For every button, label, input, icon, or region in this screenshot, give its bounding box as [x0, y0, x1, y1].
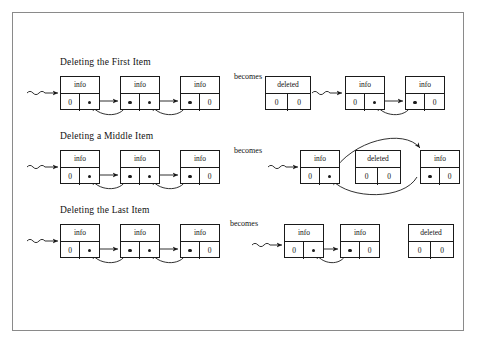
- pointer-dot-icon: [88, 101, 92, 105]
- node-next-cell: [320, 168, 339, 185]
- node-prev-cell: 0: [61, 168, 80, 185]
- node-prev-cell: [121, 242, 140, 259]
- node-pointer-row: 0: [181, 94, 219, 111]
- pointer-dot-icon: [148, 249, 152, 253]
- node-next-cell: [140, 168, 159, 185]
- before-node-3-row-3[interactable]: info 0: [180, 224, 220, 258]
- node-pointer-row: 0: [341, 242, 379, 259]
- node-prev-cell: 0: [356, 168, 378, 185]
- pointer-dot-icon: [148, 101, 152, 105]
- node-next-cell: 0: [440, 168, 459, 185]
- node-pointer-row: 0: [421, 168, 459, 185]
- becomes-label-row-2: becomes: [234, 146, 262, 155]
- pointer-dot-icon: [373, 101, 377, 105]
- node-next-cell: 0: [378, 168, 400, 185]
- deleted-info-label: deleted: [356, 151, 400, 168]
- node-info-label: info: [181, 225, 219, 242]
- node-info-label: info: [181, 151, 219, 168]
- node-info-label: info: [181, 77, 219, 94]
- after-deleted-node-row-1[interactable]: deleted 0 0: [265, 76, 311, 110]
- node-next-cell: [140, 94, 159, 111]
- node-pointer-row: 0: [181, 242, 219, 259]
- node-next-cell: 0: [288, 94, 310, 111]
- pointer-dot-icon: [188, 101, 192, 105]
- before-node-1[interactable]: info 0: [60, 76, 100, 110]
- before-node-1-row-3[interactable]: info 0: [60, 224, 100, 258]
- before-node-2-row-3[interactable]: info: [120, 224, 160, 258]
- before-node-2-row-2[interactable]: info: [120, 150, 160, 184]
- pointer-dot-icon: [88, 249, 92, 253]
- node-next-cell: 0: [200, 168, 219, 185]
- before-node-2[interactable]: info: [120, 76, 160, 110]
- node-info-label: info: [121, 77, 159, 94]
- node-info-label: info: [61, 151, 99, 168]
- node-info-label: info: [61, 77, 99, 94]
- pointer-dot-icon: [128, 175, 132, 179]
- node-next-cell: 0: [200, 242, 219, 259]
- before-node-3-row-2[interactable]: info 0: [180, 150, 220, 184]
- node-next-cell: 0: [360, 242, 379, 259]
- node-next-cell: 0: [200, 94, 219, 111]
- node-prev-cell: [181, 94, 200, 111]
- becomes-label-row-3: becomes: [230, 219, 258, 228]
- pointer-dot-icon: [148, 175, 152, 179]
- deleted-info-label: deleted: [266, 77, 310, 94]
- node-prev-cell: 0: [61, 94, 80, 111]
- node-pointer-row: 0: [406, 94, 444, 111]
- node-pointer-row: [121, 168, 159, 185]
- after-node-2-row-3[interactable]: info 0: [340, 224, 380, 258]
- node-prev-cell: 0: [266, 94, 288, 111]
- node-prev-cell: [341, 242, 360, 259]
- after-deleted-node-row-3[interactable]: deleted 0 0: [408, 224, 454, 258]
- node-prev-cell: 0: [301, 168, 320, 185]
- node-pointer-row: [121, 242, 159, 259]
- node-info-label: info: [61, 225, 99, 242]
- pointer-dot-icon: [188, 249, 192, 253]
- node-next-cell: 0: [431, 242, 453, 259]
- after-node-1-row-2[interactable]: info 0: [300, 150, 340, 184]
- node-prev-cell: [421, 168, 440, 185]
- pointer-dot-icon: [428, 175, 432, 179]
- node-pointer-row: 0: [61, 242, 99, 259]
- after-node-1-row-1[interactable]: info 0: [345, 76, 385, 110]
- node-info-label: info: [301, 151, 339, 168]
- after-node-2-row-2[interactable]: info 0: [420, 150, 460, 184]
- node-pointer-row: 0: [301, 168, 339, 185]
- node-prev-cell: [406, 94, 425, 111]
- node-prev-cell: 0: [346, 94, 365, 111]
- node-prev-cell: [181, 242, 200, 259]
- node-pointer-row: 0: [181, 168, 219, 185]
- node-next-cell: [80, 242, 99, 259]
- pointer-dot-icon: [328, 175, 332, 179]
- node-prev-cell: 0: [285, 242, 304, 259]
- node-next-cell: [80, 94, 99, 111]
- pointer-dot-icon: [413, 101, 417, 105]
- node-pointer-row: 0 0: [266, 94, 310, 111]
- row-title-delete-first: Deleting the First Item: [60, 57, 151, 67]
- node-next-cell: [304, 242, 323, 259]
- node-pointer-row: 0: [61, 94, 99, 111]
- node-info-label: info: [285, 225, 323, 242]
- node-info-label: info: [121, 151, 159, 168]
- deleted-info-label: deleted: [409, 225, 453, 242]
- after-node-2-row-1[interactable]: info 0: [405, 76, 445, 110]
- row-title-delete-middle: Deleting a Middle Item: [60, 131, 153, 141]
- pointer-dot-icon: [88, 175, 92, 179]
- node-pointer-row: 0: [285, 242, 323, 259]
- node-info-label: info: [421, 151, 459, 168]
- node-next-cell: [140, 242, 159, 259]
- before-node-3[interactable]: info 0: [180, 76, 220, 110]
- before-node-1-row-2[interactable]: info 0: [60, 150, 100, 184]
- after-node-1-row-3[interactable]: info 0: [284, 224, 324, 258]
- node-next-cell: [80, 168, 99, 185]
- pointer-dot-icon: [128, 101, 132, 105]
- node-prev-cell: [181, 168, 200, 185]
- node-info-label: info: [346, 77, 384, 94]
- node-pointer-row: 0 0: [356, 168, 400, 185]
- after-deleted-node-row-2[interactable]: deleted 0 0: [355, 150, 401, 184]
- node-pointer-row: 0: [61, 168, 99, 185]
- node-pointer-row: 0: [346, 94, 384, 111]
- becomes-label-row-1: becomes: [234, 72, 262, 81]
- node-prev-cell: [121, 168, 140, 185]
- node-info-label: info: [121, 225, 159, 242]
